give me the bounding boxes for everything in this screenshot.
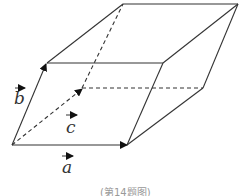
edge bbox=[203, 4, 238, 88]
label-c: c bbox=[66, 115, 77, 137]
svg-text:c: c bbox=[66, 117, 76, 137]
edge bbox=[127, 63, 163, 145]
edge bbox=[163, 4, 238, 63]
caption: (第14题图) bbox=[100, 186, 151, 196]
parallelepiped-diagram: b c a (第14题图) bbox=[0, 0, 241, 196]
hidden-edge bbox=[82, 4, 123, 88]
edge bbox=[127, 88, 203, 145]
edge bbox=[47, 4, 123, 63]
label-b: b bbox=[14, 88, 25, 108]
svg-text:a: a bbox=[62, 157, 72, 177]
label-a: a bbox=[62, 156, 73, 177]
svg-text:b: b bbox=[14, 88, 25, 108]
